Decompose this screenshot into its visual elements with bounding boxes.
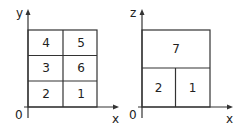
- cell-label: 5: [77, 36, 85, 50]
- cell-label: 2: [42, 87, 50, 101]
- origin-label: 0: [15, 108, 23, 122]
- cell-label: 3: [42, 61, 50, 75]
- cell-label: 2: [155, 81, 163, 95]
- y-axis-label: y: [16, 6, 23, 20]
- x-axis-label: x: [226, 112, 233, 126]
- left-panel: y x 0 4 5 3 6 2 1: [15, 6, 119, 126]
- cell-label: 1: [77, 87, 85, 101]
- cell-label: 4: [42, 36, 50, 50]
- right-panel: z x 0 7 2 1: [129, 6, 233, 126]
- x-axis-label: x: [112, 112, 119, 126]
- cell-label: 6: [77, 61, 85, 75]
- diagram-canvas: y x 0 4 5 3 6 2 1 z x 0 7 2 1: [0, 0, 245, 128]
- x-axis-arrow-icon: [113, 105, 119, 110]
- origin-label: 0: [129, 108, 137, 122]
- cell-label: 1: [189, 81, 197, 95]
- z-axis-arrow-icon: [140, 9, 145, 15]
- cell-label: 7: [172, 42, 180, 56]
- z-axis-label: z: [130, 6, 136, 20]
- y-axis-arrow-icon: [26, 9, 31, 15]
- x-axis-arrow-icon: [227, 105, 233, 110]
